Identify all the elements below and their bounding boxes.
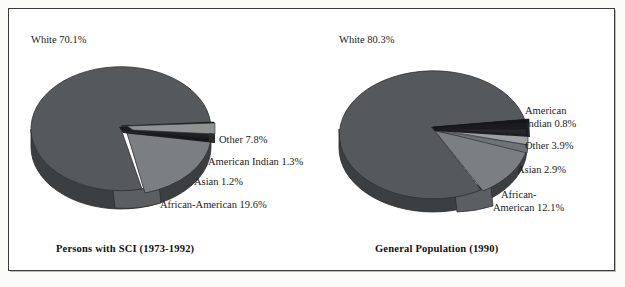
- label-african-american-right-line1: African-: [501, 189, 537, 202]
- pie-detached-wedge-edge: [209, 133, 215, 143]
- figure-frame: White 70.1% Other 7.8% American Indian 1…: [8, 8, 615, 271]
- chart-panel-persons-with-sci: White 70.1% Other 7.8% American Indian 1…: [9, 9, 313, 272]
- label-african-american-right-line2: American 12.1%: [493, 202, 564, 215]
- figure-root: White 70.1% Other 7.8% American Indian 1…: [0, 0, 625, 287]
- label-other-left: Other 7.8%: [219, 134, 267, 147]
- label-african-american-left: African-American 19.6%: [160, 199, 267, 212]
- label-white-right: White 80.3%: [339, 34, 394, 47]
- label-american-indian-right-line2: Indian 0.8%: [525, 118, 576, 131]
- label-asian-right: Asian 2.9%: [517, 164, 566, 177]
- label-other-right: Other 3.9%: [525, 140, 573, 153]
- label-asian-left: Asian 1.2%: [194, 176, 243, 189]
- chart-caption-general-population: General Population (1990): [375, 243, 498, 254]
- chart-caption-persons-with-sci: Persons with SCI (1973-1992): [56, 243, 194, 254]
- label-american-indian-right-line1: American: [525, 105, 566, 118]
- chart-panel-general-population: White 80.3% American Indian 0.8% Other 3…: [313, 9, 616, 272]
- label-american-indian-left: American Indian 1.3%: [208, 156, 303, 169]
- label-white-left: White 70.1%: [31, 34, 86, 47]
